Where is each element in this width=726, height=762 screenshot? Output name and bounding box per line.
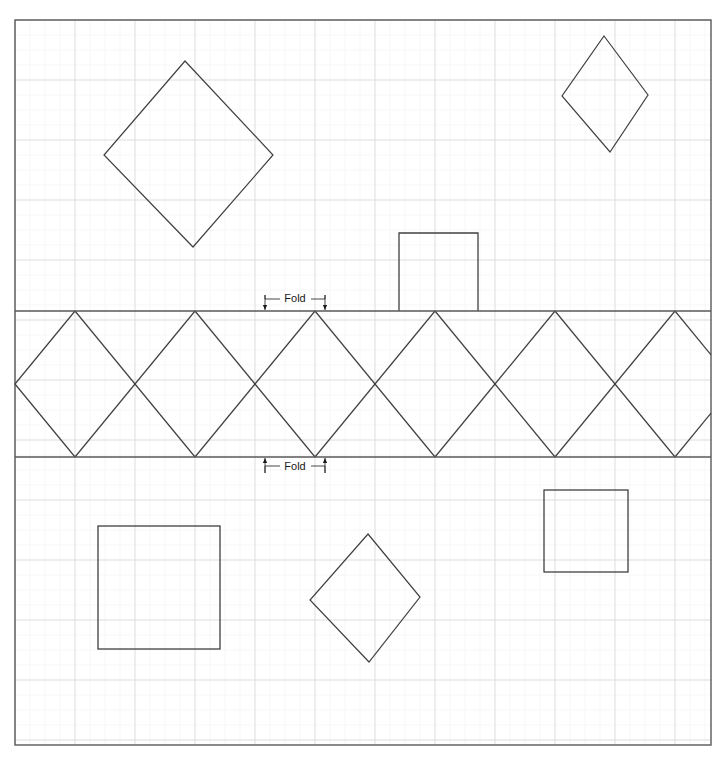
fold-pattern-diagram: FoldFold [0,0,726,762]
diagram-canvas: FoldFold [0,0,726,762]
fold-label-text: Fold [284,460,305,472]
fold-label-text: Fold [284,292,305,304]
